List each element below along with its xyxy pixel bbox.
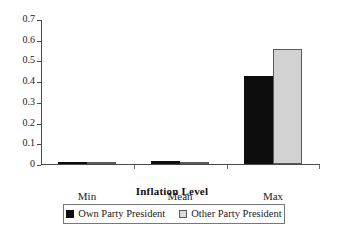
bar-own-max [244, 76, 273, 164]
bar-own-min [58, 162, 87, 164]
y-tick-label: 0.6 [23, 34, 36, 46]
y-tick-mark [37, 20, 41, 21]
legend-entry-own-party: Own Party President [66, 208, 165, 220]
y-tick-label: 0.1 [23, 137, 36, 149]
legend-label-other-party: Other Party President [191, 208, 281, 220]
bar-other-max [273, 49, 302, 164]
y-tick-label: 0.3 [23, 96, 36, 108]
bar-other-mean [180, 162, 209, 164]
x-axis-line [41, 164, 320, 165]
x-axis-separator [319, 165, 320, 169]
legend-swatch-filled-square-icon [66, 210, 74, 218]
bar-chart-figure: 0.7 0.6 0.5 0.4 0.3 0.2 0.1 0 [0, 0, 344, 235]
x-axis-title: Inflation Level [0, 185, 344, 197]
y-tick-label: 0.2 [23, 117, 36, 129]
y-tick-label: 0.4 [23, 75, 36, 87]
y-tick-label: 0 [30, 158, 35, 170]
x-axis-separator [227, 165, 228, 169]
y-tick-label: 0.5 [23, 54, 36, 66]
y-tick-mark [37, 165, 41, 166]
y-tick-mark [37, 144, 41, 145]
chart-legend: Own Party President Other Party Presiden… [63, 204, 285, 224]
y-tick-mark [37, 41, 41, 42]
legend-swatch-outlined-square-icon [179, 210, 187, 218]
legend-entry-other-party: Other Party President [179, 208, 281, 220]
x-axis-separator [134, 165, 135, 169]
y-axis-line [41, 20, 42, 165]
y-tick-mark [37, 61, 41, 62]
bar-own-mean [151, 161, 180, 164]
bar-other-min [87, 162, 116, 164]
y-tick-mark [37, 82, 41, 83]
plot-area: 0.7 0.6 0.5 0.4 0.3 0.2 0.1 0 [41, 20, 320, 165]
y-tick-mark [37, 124, 41, 125]
y-tick-label: 0.7 [23, 13, 36, 25]
y-tick-mark [37, 103, 41, 104]
legend-label-own-party: Own Party President [78, 208, 165, 220]
